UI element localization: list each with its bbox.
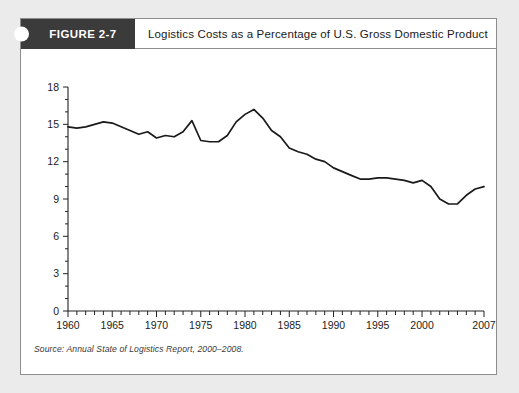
chart-container: 0369121518 19601965197019751980198519901… [21,49,496,334]
figure-number-badge: FIGURE 2-7 [21,19,135,49]
y-tick-label: 12 [47,155,59,167]
x-tick-label: 2007 [472,319,496,331]
x-tick-label: 1985 [278,319,302,331]
x-tick-label: 1975 [189,319,213,331]
figure-page: FIGURE 2-7 Logistics Costs as a Percenta… [0,0,519,393]
figure-title-bar: Logistics Costs as a Percentage of U.S. … [135,19,496,49]
y-tick-label: 0 [53,305,59,317]
x-tick-label: 1990 [322,319,346,331]
y-tick-label: 3 [53,267,59,279]
source-note-wrap: Source: Annual State of Logistics Report… [34,338,474,356]
x-tick-label: 1980 [233,319,257,331]
x-tick-label: 2000 [410,319,434,331]
logistics-cost-series [68,109,484,204]
y-axis-ticks [63,87,68,311]
x-axis-ticks [68,311,484,317]
y-tick-label: 9 [53,193,59,205]
y-tick-label: 18 [47,81,59,93]
y-axis-tick-labels: 0369121518 [47,81,59,317]
badge-notch-icon [14,27,29,42]
y-tick-label: 15 [47,118,59,130]
figure-header: FIGURE 2-7 Logistics Costs as a Percenta… [21,19,496,49]
figure-number-label: FIGURE 2-7 [39,28,116,40]
x-axis-tick-labels: 1960196519701975198019851990199520002007 [56,319,496,331]
x-tick-label: 1995 [366,319,390,331]
figure-title: Logistics Costs as a Percentage of U.S. … [148,28,488,40]
x-tick-label: 1960 [56,319,80,331]
x-tick-label: 1965 [101,319,125,331]
x-tick-label: 1970 [145,319,169,331]
source-note: Source: Annual State of Logistics Report… [34,344,244,354]
line-chart: 0369121518 19601965197019751980198519901… [21,49,496,334]
y-tick-label: 6 [53,230,59,242]
